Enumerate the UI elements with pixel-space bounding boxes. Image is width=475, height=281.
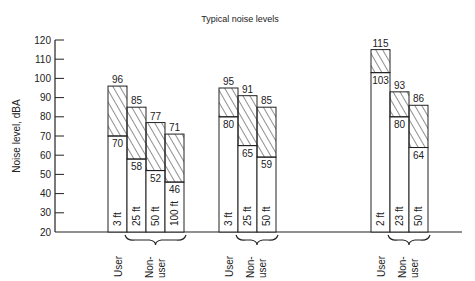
- hatched-range: [108, 86, 127, 136]
- high-value-label: 95: [223, 76, 235, 87]
- hatched-range: [257, 107, 276, 157]
- nonuser-label-line1: Non-: [144, 256, 155, 278]
- distance-label: 3 ft: [223, 212, 234, 226]
- y-tick-label: 100: [34, 73, 51, 84]
- noise-level-chart: Typical noise levels Noise level, dBA 20…: [0, 0, 475, 281]
- bar-group: 1151032 ft938023 ft866450 ftUserNon-user: [371, 38, 430, 278]
- distance-label: 100 ft: [169, 201, 180, 226]
- nonuser-label-line1: Non-: [245, 256, 256, 278]
- distance-label: 25 ft: [131, 206, 142, 226]
- user-label: User: [376, 255, 387, 277]
- distance-label: 3 ft: [112, 212, 123, 226]
- y-tick-label: 50: [40, 169, 52, 180]
- nonuser-label-line1: Non-: [397, 256, 408, 278]
- range-bar: 866450 ft: [409, 93, 428, 232]
- bar-groups: 96703 ft855825 ft775250 ft7146100 ftUser…: [108, 38, 430, 278]
- high-value-label: 77: [150, 111, 162, 122]
- hatched-range: [219, 88, 238, 117]
- range-bar: 855825 ft: [127, 95, 146, 232]
- range-bar: 916525 ft: [238, 84, 257, 232]
- hatched-range: [409, 105, 428, 147]
- y-tick-label: 20: [40, 227, 52, 238]
- user-label: User: [224, 255, 235, 277]
- distance-label: 50 ft: [261, 206, 272, 226]
- y-tick-label: 70: [40, 131, 52, 142]
- low-value-label: 58: [131, 161, 143, 172]
- hatched-range: [165, 134, 184, 182]
- low-value-label: 64: [413, 150, 425, 161]
- low-value-label: 80: [223, 119, 235, 130]
- high-value-label: 93: [394, 80, 406, 91]
- nonuser-label-line2: user: [156, 258, 167, 278]
- low-value-label: 65: [242, 148, 254, 159]
- y-tick-label: 60: [40, 150, 52, 161]
- y-tick-label: 110: [35, 54, 51, 65]
- nonuser-brace: [388, 235, 430, 245]
- nonuser-brace: [125, 235, 186, 245]
- high-value-label: 85: [261, 95, 273, 106]
- y-tick-label: 90: [40, 92, 52, 103]
- hatched-range: [146, 123, 165, 171]
- nonuser-label-line2: user: [409, 258, 420, 278]
- high-value-label: 115: [373, 38, 389, 49]
- range-bar: 95803 ft: [219, 76, 238, 232]
- low-value-label: 52: [150, 173, 162, 184]
- high-value-label: 71: [169, 122, 181, 133]
- range-bar: 1151032 ft: [371, 38, 390, 232]
- user-label: User: [113, 255, 124, 277]
- y-tick-label: 120: [34, 35, 51, 46]
- bar-group: 95803 ft916525 ft855950 ftUserNon-user: [219, 76, 278, 278]
- bar-group: 96703 ft855825 ft775250 ft7146100 ftUser…: [108, 74, 186, 278]
- hatched-range: [390, 92, 409, 117]
- distance-label: 2 ft: [375, 212, 386, 226]
- low-value-label: 103: [372, 75, 389, 86]
- y-tick-label: 40: [40, 188, 52, 199]
- y-tick-label: 80: [40, 111, 52, 122]
- high-value-label: 86: [413, 93, 425, 104]
- y-tick-label: 30: [40, 207, 52, 218]
- high-value-label: 96: [112, 74, 124, 85]
- hatched-range: [238, 96, 257, 146]
- high-value-label: 91: [242, 84, 254, 95]
- low-value-label: 70: [112, 138, 124, 149]
- distance-label: 50 ft: [150, 206, 161, 226]
- chart-title: Typical noise levels: [201, 14, 279, 24]
- high-value-label: 85: [131, 95, 143, 106]
- nonuser-brace: [236, 235, 278, 245]
- range-bar: 775250 ft: [146, 111, 165, 232]
- distance-label: 50 ft: [413, 206, 424, 226]
- hatched-range: [127, 107, 146, 159]
- nonuser-label-line2: user: [257, 258, 268, 278]
- range-bar: 938023 ft: [390, 80, 409, 232]
- range-bar: 96703 ft: [108, 74, 127, 232]
- distance-label: 25 ft: [242, 206, 253, 226]
- distance-label: 23 ft: [394, 206, 405, 226]
- low-value-label: 59: [261, 159, 273, 170]
- y-axis-label: Noise level, dBA: [11, 99, 22, 173]
- range-bar: 855950 ft: [257, 95, 276, 232]
- hatched-range: [371, 50, 390, 73]
- low-value-label: 80: [394, 119, 406, 130]
- low-value-label: 46: [169, 184, 181, 195]
- range-bar: 7146100 ft: [165, 122, 184, 232]
